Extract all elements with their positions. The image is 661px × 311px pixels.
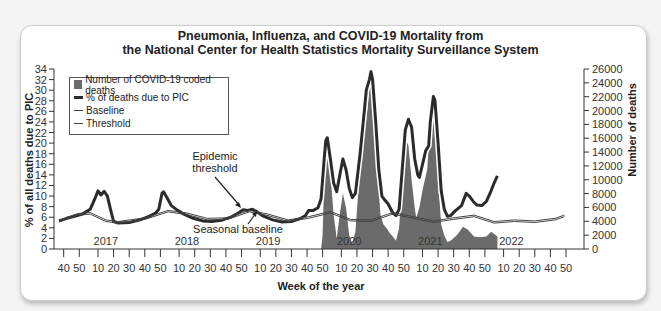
svg-text:24: 24 xyxy=(35,116,47,128)
svg-text:10: 10 xyxy=(92,262,104,274)
svg-text:10: 10 xyxy=(335,262,347,274)
svg-text:50: 50 xyxy=(73,262,85,274)
year-label: 2022 xyxy=(499,235,523,247)
svg-text:10: 10 xyxy=(254,262,266,274)
svg-text:16000: 16000 xyxy=(592,132,623,144)
chart-legend: Number of COVID-19 coded deaths % of dea… xyxy=(69,77,229,135)
epidemic-threshold-label: Epidemic xyxy=(192,150,238,162)
svg-text:50: 50 xyxy=(317,262,329,274)
svg-text:30: 30 xyxy=(448,262,460,274)
svg-text:4: 4 xyxy=(41,222,47,234)
thin-line-swatch-icon xyxy=(74,123,83,124)
covid-deaths-area-shape xyxy=(321,74,497,249)
epidemic-threshold-label: threshold xyxy=(192,162,237,174)
svg-text:40: 40 xyxy=(382,262,394,274)
svg-text:28: 28 xyxy=(35,95,47,107)
svg-text:20: 20 xyxy=(432,262,444,274)
seasonal-baseline-label: Seasonal baseline xyxy=(193,223,283,235)
svg-text:2000: 2000 xyxy=(592,229,616,241)
svg-text:0: 0 xyxy=(592,243,598,255)
svg-text:12: 12 xyxy=(35,179,47,191)
svg-text:30: 30 xyxy=(366,262,378,274)
thick-line-swatch-icon xyxy=(74,96,83,99)
legend-label: Threshold xyxy=(86,118,130,129)
svg-text:18000: 18000 xyxy=(592,118,623,130)
svg-text:10: 10 xyxy=(173,262,185,274)
chart-plot: 0246810121416182022242628303234405010203… xyxy=(0,0,661,311)
svg-text:10: 10 xyxy=(497,262,509,274)
svg-text:6: 6 xyxy=(41,211,47,223)
svg-text:16: 16 xyxy=(35,158,47,170)
covid-deaths-area xyxy=(321,74,497,249)
svg-text:12000: 12000 xyxy=(592,160,623,172)
svg-text:50: 50 xyxy=(479,262,491,274)
svg-text:8000: 8000 xyxy=(592,188,616,200)
svg-text:32: 32 xyxy=(35,74,47,86)
svg-text:10000: 10000 xyxy=(592,174,623,186)
svg-text:30: 30 xyxy=(35,84,47,96)
arrow-icon xyxy=(235,202,241,208)
legend-label: Baseline xyxy=(86,105,124,116)
svg-text:2: 2 xyxy=(41,232,47,244)
svg-text:10: 10 xyxy=(35,190,47,202)
svg-text:20: 20 xyxy=(189,262,201,274)
svg-text:20: 20 xyxy=(35,137,47,149)
svg-text:50: 50 xyxy=(154,262,166,274)
svg-text:40: 40 xyxy=(139,262,151,274)
svg-text:30: 30 xyxy=(204,262,216,274)
svg-text:30: 30 xyxy=(123,262,135,274)
thin-line-swatch-icon xyxy=(74,110,83,111)
y2-axis-title: Number of deaths xyxy=(626,83,638,177)
year-label: 2020 xyxy=(337,235,361,247)
legend-item-baseline: Baseline xyxy=(70,104,228,117)
svg-text:26000: 26000 xyxy=(592,63,623,75)
annotations: EpidemicthresholdSeasonal baseline xyxy=(192,150,283,235)
svg-text:24000: 24000 xyxy=(592,77,623,89)
year-label: 2019 xyxy=(256,235,280,247)
x-axis-title: Week of the year xyxy=(277,280,365,292)
svg-text:20: 20 xyxy=(513,262,525,274)
svg-text:14000: 14000 xyxy=(592,146,623,158)
svg-text:22000: 22000 xyxy=(592,91,623,103)
svg-text:20: 20 xyxy=(270,262,282,274)
area-swatch-icon xyxy=(74,80,82,89)
svg-text:8: 8 xyxy=(41,201,47,213)
svg-text:40: 40 xyxy=(544,262,556,274)
svg-text:10: 10 xyxy=(416,262,428,274)
svg-text:6000: 6000 xyxy=(592,201,616,213)
svg-text:14: 14 xyxy=(35,169,47,181)
svg-text:50: 50 xyxy=(560,262,572,274)
svg-text:40: 40 xyxy=(220,262,232,274)
svg-text:0: 0 xyxy=(41,243,47,255)
legend-item-threshold: Threshold xyxy=(70,117,228,130)
svg-text:22: 22 xyxy=(35,127,47,139)
svg-text:34: 34 xyxy=(35,63,47,75)
svg-text:40: 40 xyxy=(463,262,475,274)
legend-item-covid-deaths: Number of COVID-19 coded deaths xyxy=(70,78,228,91)
year-label: 2021 xyxy=(418,235,442,247)
svg-text:20: 20 xyxy=(107,262,119,274)
svg-text:26: 26 xyxy=(35,105,47,117)
svg-text:4000: 4000 xyxy=(592,215,616,227)
year-label: 2018 xyxy=(175,235,199,247)
svg-text:40: 40 xyxy=(58,262,70,274)
svg-text:18: 18 xyxy=(35,148,47,160)
svg-text:50: 50 xyxy=(235,262,247,274)
svg-text:30: 30 xyxy=(285,262,297,274)
legend-label: % of deaths due to PIC xyxy=(86,92,189,103)
svg-text:20000: 20000 xyxy=(592,105,623,117)
year-label: 2017 xyxy=(94,235,118,247)
svg-text:30: 30 xyxy=(529,262,541,274)
y-axis-title: % of all deaths due to PIC xyxy=(23,93,35,228)
svg-text:50: 50 xyxy=(398,262,410,274)
svg-text:20: 20 xyxy=(351,262,363,274)
svg-text:40: 40 xyxy=(301,262,313,274)
